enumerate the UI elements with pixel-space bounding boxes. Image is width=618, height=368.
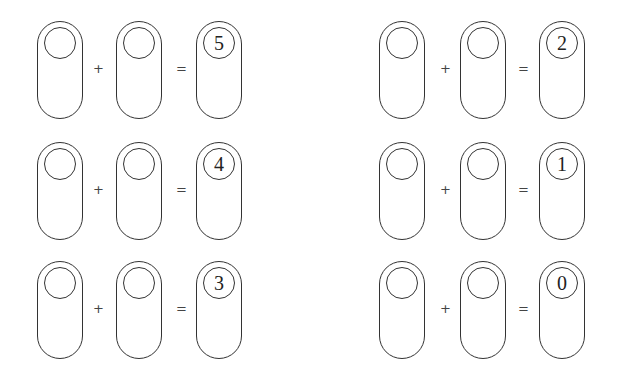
addend2-box[interactable] [116,261,162,359]
addend2-box[interactable] [460,261,506,359]
addend1-circle[interactable] [44,267,76,299]
addend1-box[interactable] [379,21,425,119]
sum-circle: 1 [546,148,578,180]
equation-row: + = 1 [379,142,618,242]
addend2-box[interactable] [116,21,162,119]
plus-sign: + [440,302,451,316]
addend2-box[interactable] [460,142,506,240]
addend1-circle[interactable] [386,148,418,180]
addend1-box[interactable] [37,21,83,119]
addend1-box[interactable] [379,142,425,240]
addend2-circle[interactable] [123,27,155,59]
plus-sign: + [440,62,451,76]
addend2-circle[interactable] [467,27,499,59]
equals-sign: = [176,183,187,197]
sum-box: 4 [196,142,242,240]
equation-row: + = 0 [379,261,618,361]
equation-row: + = 4 [37,142,297,242]
equation-row: + = 3 [37,261,297,361]
sum-circle: 0 [546,267,578,299]
addend2-box[interactable] [116,142,162,240]
equation-row: + = 5 [37,21,297,121]
addend1-box[interactable] [379,261,425,359]
plus-sign: + [93,62,104,76]
sum-circle: 5 [203,27,235,59]
plus-sign: + [93,183,104,197]
sum-circle: 4 [203,148,235,180]
addend1-box[interactable] [37,261,83,359]
plus-sign: + [440,183,451,197]
sum-box: 1 [539,142,585,240]
addend1-circle[interactable] [44,27,76,59]
sum-circle: 3 [203,267,235,299]
sum-box: 3 [196,261,242,359]
addend2-circle[interactable] [467,148,499,180]
addend1-box[interactable] [37,142,83,240]
addend2-circle[interactable] [123,148,155,180]
equals-sign: = [176,62,187,76]
equation-row: + = 2 [379,21,618,121]
addend2-circle[interactable] [123,267,155,299]
equals-sign: = [518,183,529,197]
sum-box: 5 [196,21,242,119]
sum-box: 2 [539,21,585,119]
addend2-box[interactable] [460,21,506,119]
equals-sign: = [518,302,529,316]
equals-sign: = [176,302,187,316]
sum-box: 0 [539,261,585,359]
addend1-circle[interactable] [386,27,418,59]
sum-circle: 2 [546,27,578,59]
plus-sign: + [93,302,104,316]
addend1-circle[interactable] [386,267,418,299]
addend1-circle[interactable] [44,148,76,180]
equals-sign: = [518,62,529,76]
addend2-circle[interactable] [467,267,499,299]
